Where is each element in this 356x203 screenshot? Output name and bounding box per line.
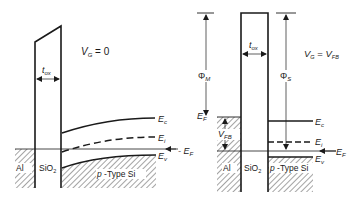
right-tox-label: tox xyxy=(249,40,259,51)
right-metal-ef-label: EF xyxy=(197,111,207,122)
right-ef-label: EF xyxy=(336,147,346,158)
right-diagram: ΦM ΦS tox VG = VFB EF VFB - EF EF Ec Ei … xyxy=(178,13,346,192)
right-oxide-label: SiO2 xyxy=(244,163,261,174)
right-ei-label: Ei xyxy=(315,137,323,148)
mos-band-diagram: tox VG = 0 Ec Ei Ev Al SiO2 p -Type Si Φ… xyxy=(0,0,356,203)
left-oxide-label: SiO2 xyxy=(39,163,56,174)
left-ec-label: Ec xyxy=(158,114,167,125)
right-left-ef-label: - EF xyxy=(178,146,194,157)
right-semiconductor-label: p -Type Si xyxy=(269,163,308,173)
left-ei-label: Ei xyxy=(158,133,166,144)
right-gate-voltage-label: VG = VFB xyxy=(304,48,339,60)
left-ev-label: Ev xyxy=(158,151,168,162)
left-conduction-band xyxy=(62,118,155,133)
left-semiconductor-label: p -Type Si xyxy=(96,169,135,179)
right-metal-label: Al xyxy=(223,163,231,173)
right-ec-label: Ec xyxy=(315,117,324,128)
right-ev-label: Ev xyxy=(315,154,325,165)
left-metal-label: Al xyxy=(16,163,24,173)
left-diagram: tox VG = 0 Ec Ei Ev Al SiO2 p -Type Si xyxy=(15,26,178,188)
left-intrinsic-level xyxy=(62,137,155,152)
left-gate-voltage-label: VG = 0 xyxy=(81,46,110,58)
left-tox-label: tox xyxy=(42,65,52,76)
